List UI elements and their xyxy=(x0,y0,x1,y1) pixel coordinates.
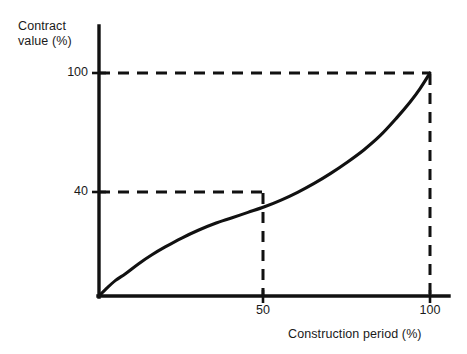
y-tick-label-100: 100 xyxy=(54,65,88,79)
x-tick-label-50: 50 xyxy=(243,303,283,317)
y-axis-title-line-2: value (%) xyxy=(18,34,72,48)
chart-figure: Contractvalue (%) Construction period (%… xyxy=(0,0,467,354)
chart-canvas xyxy=(0,0,467,354)
x-axis-title: Construction period (%) xyxy=(288,327,422,342)
x-tick-label-100: 100 xyxy=(408,303,452,317)
y-tick-label-40: 40 xyxy=(54,184,88,198)
chart-background xyxy=(0,0,467,354)
y-axis-title: Contractvalue (%) xyxy=(18,19,72,49)
y-axis-title-line-1: Contract xyxy=(18,19,66,33)
